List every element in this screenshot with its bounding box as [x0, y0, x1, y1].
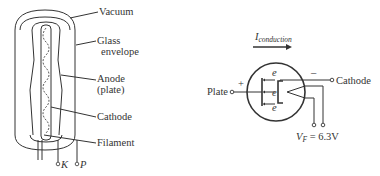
electron-label-2: e	[272, 87, 277, 98]
anode-label-1: Anode	[97, 73, 125, 84]
cathode-electrode	[278, 81, 283, 103]
anode-label-2: (plate)	[97, 84, 125, 96]
anode-bottom	[30, 135, 62, 142]
filament-terminal-1	[312, 123, 316, 127]
tube-cutaway: K P Vacuum Glass envelope Anode (plate) …	[15, 6, 139, 170]
electron-arrowhead-1	[263, 79, 266, 82]
current-label: Iconduction	[254, 31, 292, 44]
current-arrow-head	[286, 44, 292, 50]
anode-leader	[61, 75, 96, 80]
filament-heater	[287, 86, 305, 98]
glass-label-1: Glass	[97, 35, 120, 46]
anode-left	[30, 30, 34, 135]
cathode-lead	[280, 80, 330, 81]
cathode-label: Cathode	[97, 111, 132, 122]
filament-coil	[43, 28, 49, 133]
plate-label: Plate	[207, 86, 228, 97]
glass-envelope	[15, 10, 75, 150]
vacuum-label: Vacuum	[99, 6, 133, 17]
filament-terminal-2	[321, 123, 325, 127]
plate-polarity: +	[238, 78, 244, 89]
k-pin-label: K	[60, 159, 69, 170]
filament-lead-left	[305, 98, 314, 123]
cathode-polarity: –	[310, 67, 317, 78]
cathode-leader	[51, 107, 96, 117]
p-terminal	[75, 162, 79, 166]
anode-top	[32, 22, 60, 30]
glass-label-2: envelope	[101, 46, 139, 57]
vacuum-leader	[70, 12, 98, 18]
p-pin-label: P	[79, 159, 87, 170]
filament-label: Filament	[97, 137, 134, 148]
envelope-rim	[20, 17, 70, 30]
anode-right	[58, 30, 62, 135]
electron-label-3: e	[272, 102, 277, 113]
vacuum-diode-figure: K P Vacuum Glass envelope Anode (plate) …	[0, 0, 380, 176]
glass-leader	[76, 41, 96, 45]
k-terminal	[56, 162, 60, 166]
cathode-terminal	[330, 78, 334, 82]
cathode-label: Cathode	[336, 75, 371, 86]
filament-voltage-label: VF = 6.3V	[296, 131, 339, 144]
electron-arrowhead-3	[263, 103, 266, 106]
electron-arrowhead-2	[263, 91, 266, 94]
plate-terminal	[230, 90, 234, 94]
electron-label-1: e	[272, 67, 277, 78]
diode-symbol: Iconduction Plate + e e e Cathode –	[207, 31, 371, 144]
